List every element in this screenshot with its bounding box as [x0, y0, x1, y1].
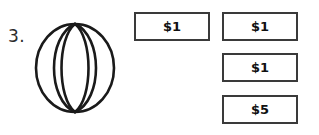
money-card-payment-2[interactable]: $1 [222, 53, 298, 82]
money-card-payment-1[interactable]: $1 [222, 12, 298, 41]
money-card-grid: $1 $1 $1 $5 [0, 0, 319, 135]
money-card-price[interactable]: $1 [134, 12, 210, 41]
money-card-amount: $1 [163, 20, 181, 33]
money-card-amount: $1 [251, 20, 269, 33]
money-card-amount: $5 [251, 103, 269, 116]
money-card-payment-3[interactable]: $5 [222, 95, 298, 124]
worksheet-question-item: 3. $1 $1 $1 $5 [0, 0, 319, 135]
money-card-amount: $1 [251, 61, 269, 74]
